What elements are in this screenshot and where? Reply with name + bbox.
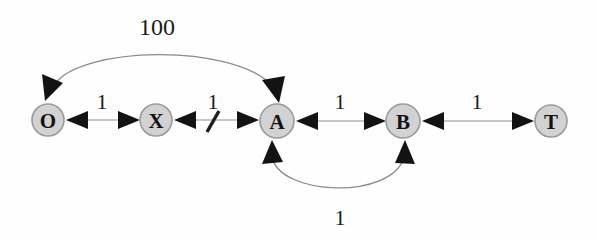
node-x[interactable]: X — [140, 104, 172, 136]
node-b[interactable]: B — [386, 104, 420, 138]
diagram-canvas: 1 1 1 1 100 — [0, 0, 597, 240]
edge-a-b-weight: 1 — [335, 89, 346, 114]
edge-a-b[interactable]: 1 — [296, 89, 386, 131]
edge-x-a-weight: 1 — [208, 89, 219, 114]
edge-b-t-weight: 1 — [472, 89, 483, 114]
edge-o-x-arrowhead-right — [118, 111, 140, 129]
edge-b-t[interactable]: 1 — [422, 89, 534, 131]
edge-b-t-arrowhead-left — [422, 112, 444, 130]
edge-a-b-arc[interactable]: 1 — [262, 140, 415, 230]
edge-b-t-arrowhead-right — [512, 112, 534, 130]
edge-x-a[interactable]: 1 — [174, 89, 259, 133]
edge-o-x[interactable]: 1 — [66, 89, 140, 130]
edge-a-b-arrowhead-right — [364, 112, 386, 130]
edge-a-b-arc-path — [272, 157, 404, 188]
edge-a-b-arc-arrowhead-left — [262, 140, 283, 164]
edge-o-x-arrowhead-left — [66, 111, 88, 129]
edge-o-a-arc[interactable]: 100 — [42, 14, 285, 103]
edge-a-b-arrowhead-left — [296, 112, 318, 130]
node-t[interactable]: T — [535, 105, 567, 137]
node-o[interactable]: O — [32, 104, 64, 136]
edge-x-a-arrowhead-left — [174, 111, 196, 129]
edge-o-a-arc-weight: 100 — [139, 14, 175, 40]
node-t-label: T — [544, 110, 558, 134]
node-a[interactable]: A — [260, 104, 294, 138]
edge-x-a-arrowhead-right — [237, 111, 259, 129]
edge-o-x-weight: 1 — [97, 89, 108, 114]
node-x-label: X — [148, 109, 163, 133]
edge-o-a-arc-path — [55, 55, 273, 86]
graph-svg: 1 1 1 1 100 — [0, 0, 597, 240]
node-a-label: A — [269, 110, 285, 134]
edge-a-b-arc-weight: 1 — [335, 205, 346, 230]
node-b-label: B — [396, 110, 410, 134]
node-o-label: O — [40, 109, 56, 133]
edge-a-b-arc-arrowhead-right — [395, 140, 415, 164]
edge-x-a-cut-slash-icon — [207, 111, 219, 132]
edge-o-a-arc-arrowhead-right — [262, 76, 285, 103]
